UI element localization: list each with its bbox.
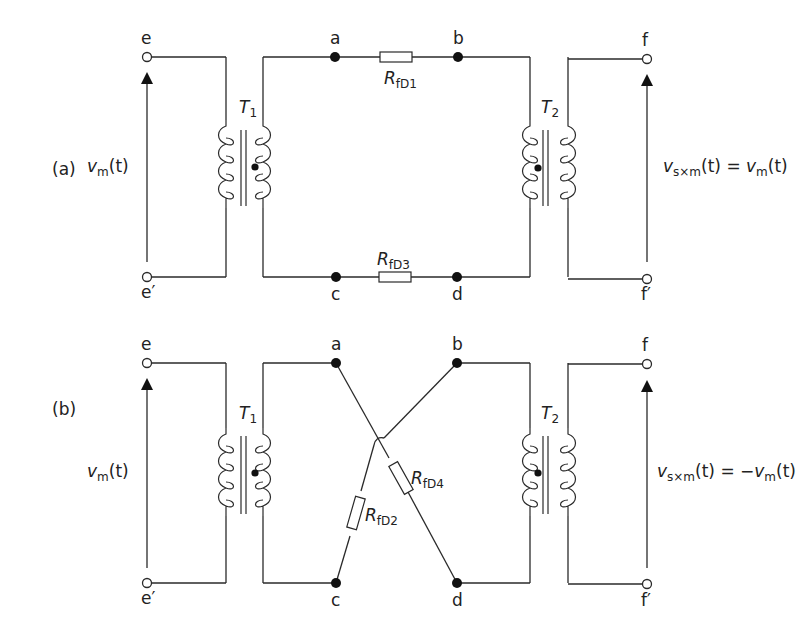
resistor-rfd2 (347, 496, 365, 530)
input-voltage-label: vm(t) (87, 461, 129, 484)
node-d-label: d (452, 284, 463, 304)
terminal-e-label: e (141, 28, 151, 48)
t2-label: T2 (541, 403, 559, 426)
ring-modulator-diagram: (a) e e′ vm(t) T1 (0, 0, 808, 628)
resistor-rfd4 (389, 462, 413, 495)
output-equation: vs×m(t) = −vm(t) (657, 461, 796, 484)
bridge-b: a b c d RfD2 RfD4 (263, 334, 530, 610)
terminal-e (143, 359, 152, 368)
panel-label-a: (a) (52, 159, 76, 179)
node-a (330, 52, 340, 62)
rfd3-label: RfD3 (377, 249, 410, 272)
input-port-a: e e′ vm(t) (87, 28, 226, 302)
terminal-f-label: f (642, 30, 649, 50)
resistor-rfd3 (379, 272, 411, 282)
panel-b: (b) e e′ vm(t) T1 (52, 334, 796, 610)
output-port-a: f f′ vs×m(t) = vm(t) (568, 30, 788, 304)
node-b (453, 52, 463, 62)
node-a (331, 358, 341, 368)
dot-marker (251, 163, 258, 170)
terminal-f-prime-label: f′ (641, 284, 651, 304)
node-b-label: b (453, 28, 464, 48)
terminal-f-prime (643, 580, 652, 589)
terminal-e-prime-label: e′ (141, 282, 155, 302)
arrow-up-icon (641, 380, 653, 392)
node-c (331, 272, 341, 282)
resistor-rfd1 (380, 52, 412, 62)
terminal-f-prime (643, 275, 652, 284)
node-c-label: c (331, 590, 340, 610)
arrow-up-icon (641, 74, 653, 86)
node-c (331, 578, 341, 588)
terminal-f (643, 360, 652, 369)
terminal-e-label: e (141, 334, 151, 354)
dot-marker (534, 164, 541, 171)
terminal-f-label: f (642, 335, 649, 355)
panel-a: (a) e e′ vm(t) T1 (52, 28, 788, 304)
dot-marker (251, 469, 258, 476)
rfd1-label: RfD1 (384, 68, 417, 91)
terminal-f (643, 55, 652, 64)
terminal-e-prime (143, 273, 152, 282)
dot-marker (534, 469, 541, 476)
terminal-f-prime-label: f′ (641, 590, 651, 610)
rfd4-label: RfD4 (411, 468, 444, 491)
node-c-label: c (331, 284, 340, 304)
rfd2-label: RfD2 (365, 505, 398, 528)
terminal-e-prime-label: e′ (141, 588, 155, 608)
terminal-e (143, 53, 152, 62)
node-a-label: a (330, 28, 340, 48)
input-voltage-label: vm(t) (87, 156, 129, 179)
terminal-e-prime (143, 579, 152, 588)
output-equation: vs×m(t) = vm(t) (663, 156, 788, 179)
arrow-up-icon (141, 72, 153, 84)
output-port-b: f f′ vs×m(t) = −vm(t) (568, 335, 796, 610)
t1-label: T1 (239, 403, 257, 426)
node-d (452, 578, 462, 588)
panel-label-b: (b) (52, 399, 76, 419)
node-d (452, 272, 462, 282)
node-a-label: a (331, 334, 341, 354)
arrow-up-icon (141, 378, 153, 390)
input-port-b: e e′ vm(t) (87, 334, 226, 608)
node-b-label: b (452, 334, 463, 354)
bridge-a: a b c d RfD1 RfD3 (263, 28, 530, 304)
node-d-label: d (452, 590, 463, 610)
node-b (452, 358, 462, 368)
t2-label: T2 (541, 97, 559, 120)
t1-label: T1 (239, 97, 257, 120)
